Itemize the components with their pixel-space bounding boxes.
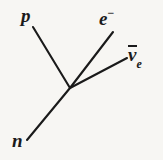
neutron-label: n (12, 131, 23, 150)
electron-label: e− (99, 8, 114, 28)
proton-label-text: p (21, 5, 31, 26)
beta-decay-diagram: p n e− ve (0, 0, 163, 160)
antibar-icon (128, 45, 137, 47)
proton-line (33, 27, 70, 88)
neutron-line (27, 88, 70, 140)
proton-label: p (21, 6, 31, 25)
antineutrino-label: ve (128, 44, 142, 68)
electron-charge-superscript: − (107, 6, 114, 20)
neutron-label-text: n (12, 130, 23, 151)
antineutrino-flavor-subscript: e (136, 57, 141, 71)
antineutrino-line (70, 58, 127, 88)
electron-line (70, 32, 113, 88)
